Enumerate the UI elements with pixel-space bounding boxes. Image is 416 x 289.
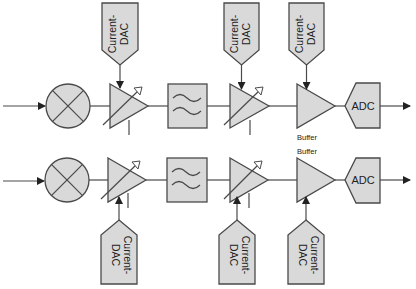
signal-chain-bottom: Buffer ADC Current- DAC Current- DAC Cur… bbox=[3, 147, 410, 284]
buffer-amplifier-icon bbox=[297, 84, 335, 128]
current-dac-block: Current- DAC bbox=[101, 197, 137, 284]
svg-text:Current-: Current- bbox=[122, 236, 134, 275]
variable-gain-amplifier-icon bbox=[224, 158, 268, 208]
svg-text:DAC: DAC bbox=[228, 244, 240, 267]
svg-text:DAC: DAC bbox=[110, 244, 122, 267]
mixer-icon bbox=[46, 84, 90, 128]
svg-text:DAC: DAC bbox=[297, 244, 309, 267]
svg-text:DAC: DAC bbox=[240, 22, 252, 45]
adc-block: ADC bbox=[345, 158, 380, 203]
variable-gain-amplifier-icon bbox=[103, 84, 148, 135]
svg-text:Current-: Current- bbox=[293, 14, 305, 53]
current-dac-block: Current- DAC bbox=[219, 197, 255, 284]
adc-block: ADC bbox=[345, 83, 380, 128]
adc-label: ADC bbox=[351, 100, 374, 112]
svg-text:Current-: Current- bbox=[309, 236, 321, 275]
current-dac-block: Current- DAC bbox=[289, 3, 324, 89]
receiver-block-diagram: Buffer ADC Current- DAC Current- DAC Cur… bbox=[0, 0, 416, 289]
buffer-amplifier-icon bbox=[297, 158, 335, 202]
svg-text:Current-: Current- bbox=[228, 14, 240, 53]
low-pass-filter-icon bbox=[168, 84, 207, 128]
variable-gain-amplifier-icon bbox=[101, 158, 146, 208]
svg-text:Current-: Current- bbox=[106, 14, 118, 53]
svg-text:DAC: DAC bbox=[118, 22, 130, 45]
current-dac-block: Current- DAC bbox=[102, 3, 138, 88]
svg-text:DAC: DAC bbox=[305, 22, 317, 45]
adc-label: ADC bbox=[351, 174, 374, 186]
buffer-label: Buffer bbox=[297, 147, 317, 156]
current-dac-block: Current- DAC bbox=[224, 3, 259, 89]
mixer-icon bbox=[45, 158, 89, 202]
variable-gain-amplifier-icon bbox=[224, 84, 269, 135]
svg-text:Current-: Current- bbox=[240, 236, 252, 275]
buffer-label: Buffer bbox=[297, 133, 317, 142]
signal-chain-top: Buffer ADC Current- DAC Current- DAC Cur… bbox=[3, 3, 410, 142]
current-dac-block: Current- DAC bbox=[288, 197, 324, 284]
low-pass-filter-icon bbox=[167, 158, 207, 202]
